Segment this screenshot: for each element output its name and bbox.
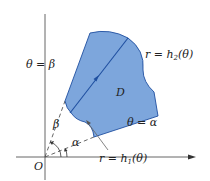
polar-region-diagram: θ = β r = h2(θ) D θ = α β α O r = h1(θ) bbox=[0, 0, 210, 181]
ray-theta-alpha-dashed bbox=[45, 137, 94, 157]
label-angle-alpha: α bbox=[72, 136, 80, 149]
x-axis-arrowhead-icon bbox=[188, 155, 196, 160]
label-origin: O bbox=[34, 160, 43, 173]
label-inner-curve: r = h1(θ) bbox=[99, 152, 147, 166]
label-theta-beta: θ = β bbox=[26, 58, 55, 71]
label-angle-beta: β bbox=[52, 118, 59, 131]
label-outer-curve: r = h2(θ) bbox=[145, 48, 193, 62]
label-theta-alpha: θ = α bbox=[127, 116, 158, 129]
label-region-d: D bbox=[115, 86, 125, 99]
